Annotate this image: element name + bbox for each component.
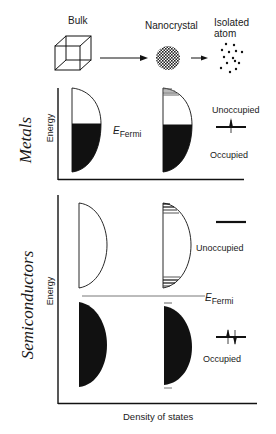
semiconductors-energy-axis-label: Energy: [45, 276, 55, 305]
metals-section-label: Metals: [16, 116, 35, 164]
semiconductors-section-label: Semiconductors: [18, 250, 37, 359]
metals-atomic-level-icon: [216, 118, 246, 133]
density-of-states-diagram: Bulk Nanocrystal Isolated atom: [0, 0, 276, 434]
metals-unoccupied-label: Unoccupied: [212, 105, 260, 115]
metals-panel: Metals Energy EFermi Unoccupied: [16, 88, 260, 180]
semiconductors-nanocrystal-valence-band: [164, 303, 192, 388]
arrow-nanocrystal-to-atom: [191, 56, 208, 61]
semiconductors-nanocrystal-conduction-band: [163, 203, 191, 288]
nanocrystal-group: Nanocrystal: [145, 20, 198, 70]
metals-fermi-label: EFermi: [113, 125, 142, 139]
x-axis-label: Density of states: [123, 411, 193, 422]
nanocrystal-sphere-icon: [156, 46, 180, 70]
bulk-group: Bulk: [55, 15, 91, 70]
bulk-label: Bulk: [68, 15, 88, 26]
semiconductors-bulk-valence-band: [79, 302, 107, 387]
metals-occupied-label: Occupied: [210, 150, 248, 160]
semiconductors-panel: Semiconductors Energy EFermi: [18, 195, 257, 404]
atom-label-line1: Isolated: [214, 17, 249, 28]
semiconductors-fermi-label: EFermi: [205, 292, 234, 306]
metals-energy-axis-label: Energy: [45, 113, 55, 142]
metals-nanocrystal-band: [163, 88, 192, 172]
semiconductors-unoccupied-label: Unoccupied: [196, 243, 244, 253]
isolated-atom-group: Isolated atom: [214, 17, 249, 73]
cube-icon: [55, 36, 91, 70]
scattered-atoms-icon: [220, 43, 243, 73]
semiconductors-bulk-conduction-band: [79, 203, 107, 288]
metals-bulk-band: [72, 88, 101, 172]
arrow-bulk-to-nanocrystal: [100, 55, 148, 61]
atom-label-line2: atom: [214, 28, 236, 39]
semiconductors-occupied-label: Occupied: [203, 354, 241, 364]
semiconductors-filled-level-icon: [216, 329, 246, 345]
nanocrystal-label: Nanocrystal: [145, 20, 198, 31]
